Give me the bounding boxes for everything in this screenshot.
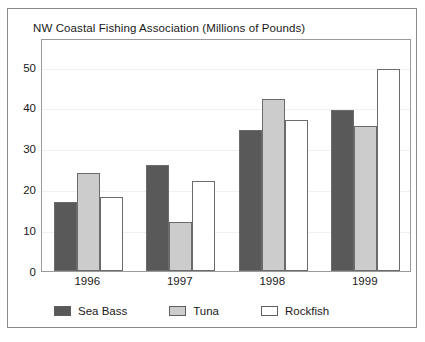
- bar-group-1998: [239, 40, 308, 271]
- y-tick-label-30: 30: [23, 143, 36, 155]
- x-tick-label-1998: 1998: [259, 275, 285, 287]
- legend-item-tuna[interactable]: Tuna: [169, 305, 219, 317]
- chart-card: NW Coastal Fishing Association (Millions…: [7, 8, 417, 328]
- x-tick-label-1996: 1996: [74, 275, 100, 287]
- legend-item-sea-bass[interactable]: Sea Bass: [54, 305, 127, 317]
- y-tick-label-50: 50: [23, 62, 36, 74]
- legend-label: Rockfish: [285, 305, 329, 317]
- x-tick-label-1997: 1997: [167, 275, 193, 287]
- legend-label: Tuna: [193, 305, 219, 317]
- legend-swatch-tuna: [169, 306, 186, 316]
- bar-group-1996: [54, 40, 123, 271]
- bar-sea-bass-1996[interactable]: [54, 202, 77, 271]
- bar-rockfish-1997[interactable]: [192, 181, 215, 271]
- y-tick-label-20: 20: [23, 184, 36, 196]
- x-tick-label-1999: 1999: [352, 275, 378, 287]
- legend-swatch-rockfish: [261, 306, 278, 316]
- legend-swatch-sea-bass: [54, 306, 71, 316]
- bar-sea-bass-1997[interactable]: [146, 165, 169, 271]
- bar-rockfish-1996[interactable]: [100, 197, 123, 271]
- bar-sea-bass-1998[interactable]: [239, 130, 262, 271]
- bar-rockfish-1998[interactable]: [285, 120, 308, 271]
- bar-rockfish-1999[interactable]: [377, 69, 400, 271]
- chart-title: NW Coastal Fishing Association (Millions…: [33, 22, 305, 34]
- bar-sea-bass-1999[interactable]: [331, 110, 354, 271]
- y-tick-label-10: 10: [23, 225, 36, 237]
- bar-tuna-1998[interactable]: [262, 99, 285, 271]
- y-axis-tick-labels: 01020304050: [8, 39, 36, 272]
- bar-group-1997: [146, 40, 215, 271]
- bar-tuna-1996[interactable]: [77, 173, 100, 271]
- bar-tuna-1997[interactable]: [169, 222, 192, 271]
- y-tick-label-0: 0: [30, 266, 36, 278]
- x-axis-tick-labels: 1996199719981999: [41, 275, 411, 293]
- chart-legend: Sea BassTunaRockfish: [54, 305, 329, 317]
- bar-tuna-1999[interactable]: [354, 126, 377, 271]
- legend-label: Sea Bass: [78, 305, 127, 317]
- plot-area: [41, 39, 411, 272]
- bar-group-1999: [331, 40, 400, 271]
- plot-inner: [42, 40, 410, 271]
- legend-item-rockfish[interactable]: Rockfish: [261, 305, 329, 317]
- y-tick-label-40: 40: [23, 102, 36, 114]
